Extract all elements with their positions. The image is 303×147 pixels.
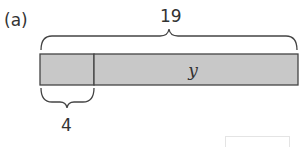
part-brace	[41, 88, 94, 108]
known-part-value: 4	[61, 117, 72, 134]
total-brace	[41, 29, 297, 50]
answer-box[interactable]	[225, 136, 290, 147]
unknown-variable-y: y	[187, 60, 198, 80]
bar-model-diagram: y	[0, 0, 303, 147]
bar-segment-known	[40, 54, 94, 85]
